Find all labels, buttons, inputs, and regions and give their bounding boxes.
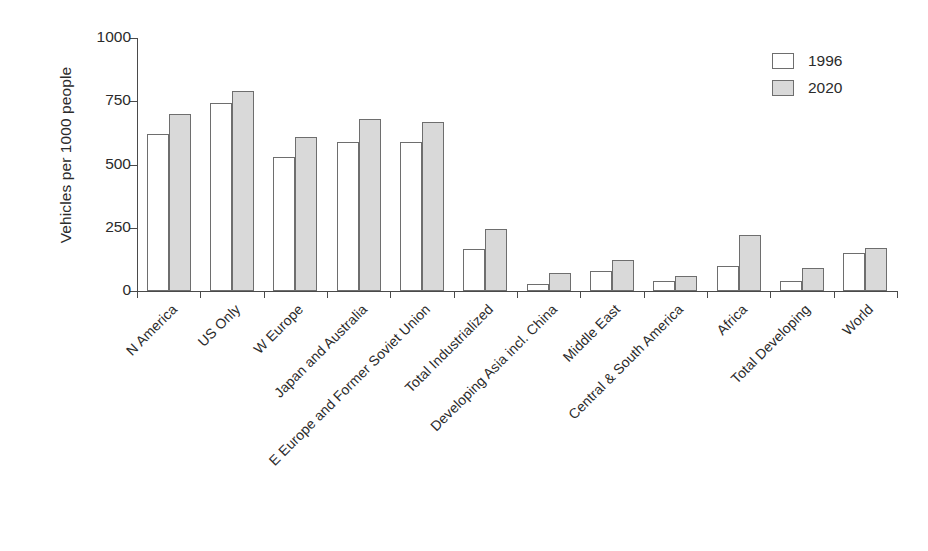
x-axis-label: Japan and Australia <box>76 301 370 551</box>
x-axis-label: N America <box>0 301 180 551</box>
bar-1996 <box>273 157 295 291</box>
x-tick-mark <box>770 291 771 298</box>
bar-2020 <box>485 229 507 291</box>
bar-1996 <box>463 249 485 292</box>
bar-group <box>400 38 444 291</box>
x-tick-mark <box>707 291 708 298</box>
x-axis-label: US Only <box>0 301 243 551</box>
y-tick-mark <box>130 165 137 166</box>
x-tick-mark <box>264 291 265 298</box>
bar-group <box>463 38 507 291</box>
legend-entry-1996: 1996 <box>772 47 902 74</box>
bar-2020 <box>802 268 824 291</box>
bar-group <box>590 38 634 291</box>
x-tick-mark <box>137 291 138 298</box>
bar-2020 <box>232 91 254 291</box>
x-axis-label: Total Developing <box>519 301 813 551</box>
bar-2020 <box>169 114 191 291</box>
bar-2020 <box>865 248 887 291</box>
y-tick-mark <box>130 228 137 229</box>
bar-chart: Vehicles per 1000 people 02505007501000 … <box>0 0 928 551</box>
bar-1996 <box>400 142 422 291</box>
bar-group <box>337 38 381 291</box>
y-tick-label: 750 <box>105 91 131 109</box>
bar-1996 <box>590 271 612 291</box>
y-tick-label: 1000 <box>97 28 131 46</box>
bar-1996 <box>147 134 169 291</box>
legend: 1996 2020 <box>772 47 902 101</box>
bar-2020 <box>359 119 381 291</box>
bar-group <box>210 38 254 291</box>
y-axis-line <box>137 38 138 291</box>
bar-2020 <box>675 276 697 291</box>
y-tick-mark <box>130 291 137 292</box>
x-tick-mark <box>644 291 645 298</box>
y-axis-title: Vehicles per 1000 people <box>46 10 86 300</box>
x-axis-label: Central & South America <box>392 301 686 551</box>
bar-1996 <box>843 253 865 291</box>
x-axis-label: Africa <box>456 301 750 551</box>
bar-2020 <box>295 137 317 291</box>
x-tick-mark <box>517 291 518 298</box>
y-tick-mark <box>130 101 137 102</box>
x-tick-mark <box>454 291 455 298</box>
bar-2020 <box>549 273 571 291</box>
bar-2020 <box>739 235 761 291</box>
y-tick-label: 500 <box>105 155 131 173</box>
bar-group <box>653 38 697 291</box>
legend-swatch-icon-2020 <box>772 80 794 96</box>
x-axis-label: E Europe and Former Soviet Union <box>139 301 433 551</box>
bar-group <box>527 38 571 291</box>
x-axis-label: Middle East <box>329 301 623 551</box>
bar-1996 <box>210 103 232 291</box>
bar-group <box>717 38 761 291</box>
bar-2020 <box>612 260 634 291</box>
bar-group <box>147 38 191 291</box>
y-tick-mark <box>130 38 137 39</box>
x-tick-mark <box>897 291 898 298</box>
legend-entry-2020: 2020 <box>772 74 902 101</box>
bar-1996 <box>717 266 739 291</box>
x-axis-label: World <box>582 301 876 551</box>
bar-1996 <box>527 284 549 291</box>
bar-1996 <box>653 281 675 291</box>
x-tick-mark <box>200 291 201 298</box>
x-axis-label: Developing Asia incl. China <box>266 301 560 551</box>
x-axis-label: W Europe <box>13 301 307 551</box>
bar-1996 <box>337 142 359 291</box>
bar-1996 <box>780 281 802 291</box>
bar-group <box>273 38 317 291</box>
x-tick-mark <box>327 291 328 298</box>
y-tick-label: 250 <box>105 218 131 236</box>
x-axis-label: Total Industrialized <box>202 301 496 551</box>
x-tick-mark <box>390 291 391 298</box>
x-tick-mark <box>834 291 835 298</box>
x-tick-mark <box>580 291 581 298</box>
legend-swatch-icon-1996 <box>772 53 794 69</box>
bar-2020 <box>422 122 444 291</box>
legend-label-2020: 2020 <box>808 79 842 97</box>
legend-label-1996: 1996 <box>808 52 842 70</box>
y-tick-label: 0 <box>122 281 131 299</box>
